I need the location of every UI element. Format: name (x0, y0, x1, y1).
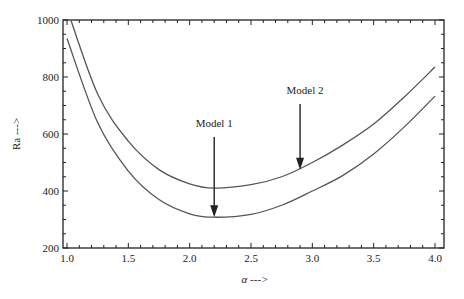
curve-model-1 (67, 39, 435, 218)
x-tick-labels: 1.01.52.02.53.03.54.0 (60, 252, 442, 264)
x-tick-label: 4.0 (428, 252, 442, 264)
y-tick-labels: 2004006008001000 (37, 14, 60, 254)
x-tick-label: 1.0 (60, 252, 74, 264)
y-tick-label: 600 (43, 128, 60, 140)
x-tick-label: 2.0 (183, 252, 197, 264)
y-tick-label: 800 (43, 71, 60, 83)
annotation-label: Model 1 (196, 117, 233, 129)
arrowhead-icon (210, 205, 218, 217)
x-tick-label: 3.5 (367, 252, 381, 264)
curve-model-2 (67, 9, 435, 189)
chart: 1.01.52.02.53.03.54.0 2004006008001000 M… (0, 0, 464, 299)
annotations: Model 1Model 2 (196, 84, 324, 217)
x-axis-label: α ---> (242, 273, 269, 285)
y-tick-label: 1000 (37, 14, 60, 26)
y-axis-label: Ra ---> (10, 118, 22, 150)
x-tick-label: 3.0 (305, 252, 319, 264)
y-tick-label: 400 (43, 185, 60, 197)
x-tick-label: 1.5 (121, 252, 135, 264)
x-tick-label: 2.5 (244, 252, 258, 264)
curves (67, 9, 435, 218)
y-tick-label: 200 (43, 242, 60, 254)
annotation-label: Model 2 (287, 84, 324, 96)
